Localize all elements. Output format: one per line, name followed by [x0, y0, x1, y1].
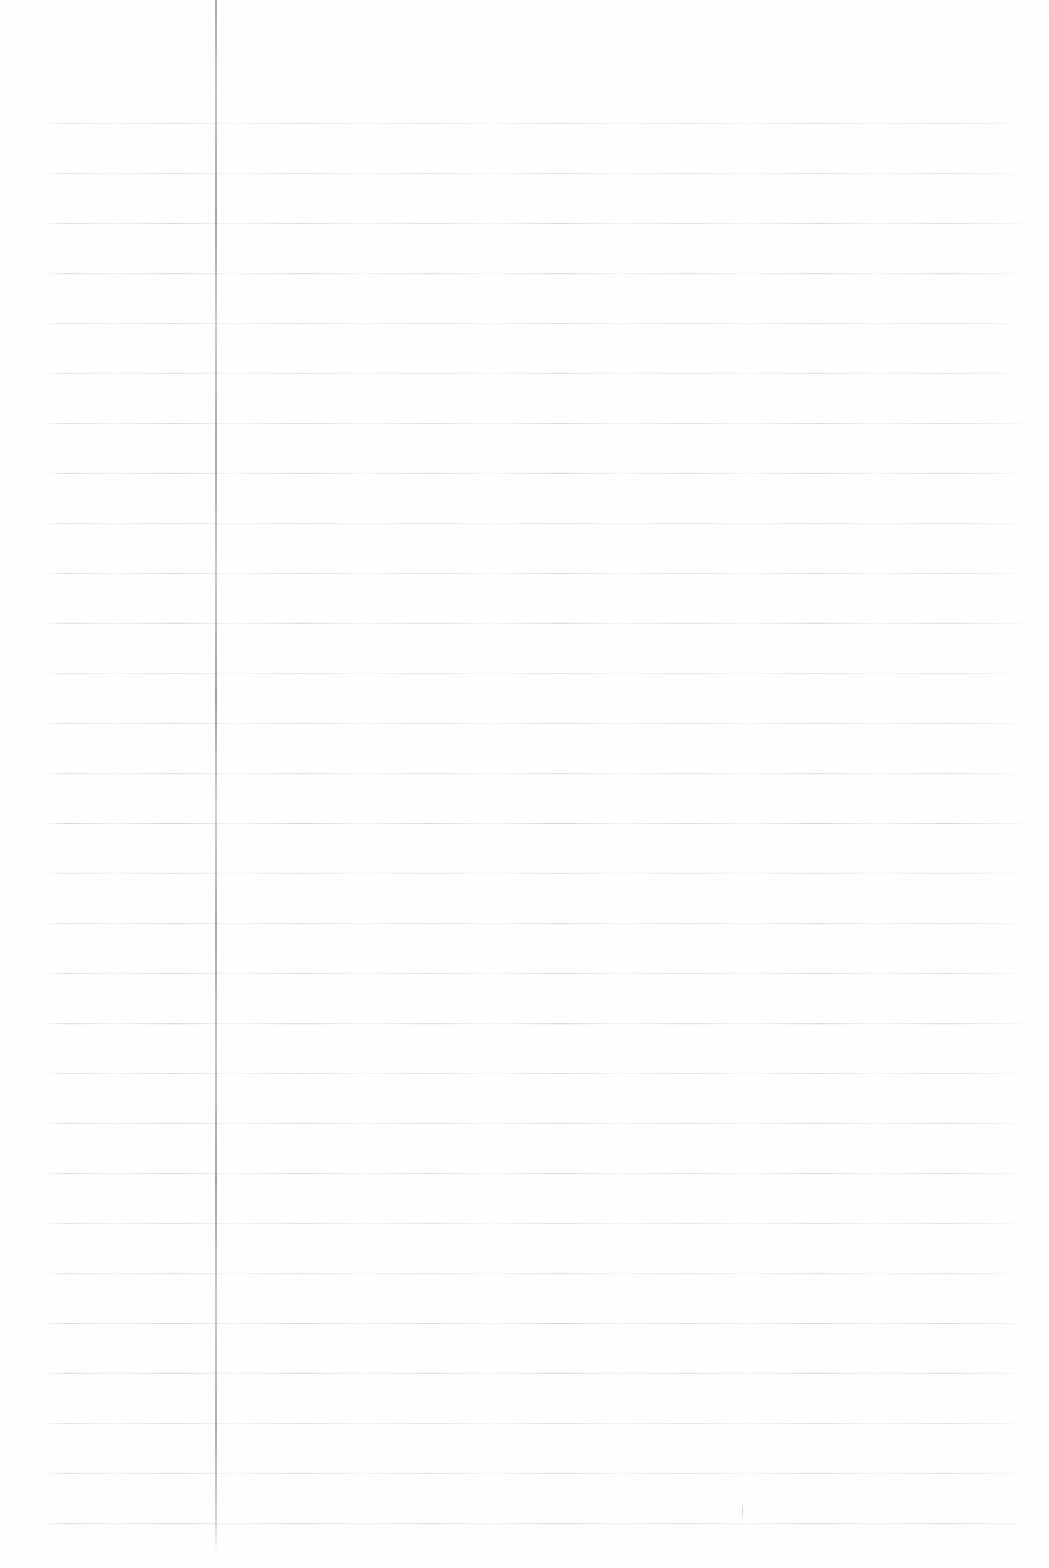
page-content-area	[226, 128, 1026, 1518]
horizontal-rule	[46, 1523, 1035, 1524]
horizontal-rule	[46, 123, 1035, 124]
scanned-notebook-page	[0, 0, 1049, 1568]
vertical-margin-rule	[215, 0, 217, 1553]
